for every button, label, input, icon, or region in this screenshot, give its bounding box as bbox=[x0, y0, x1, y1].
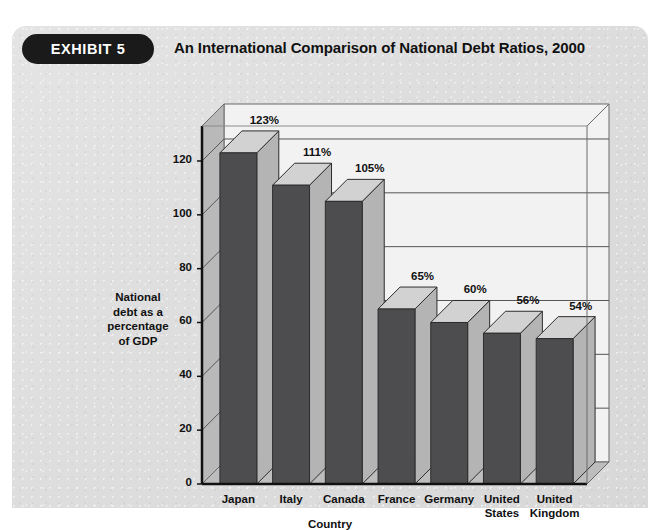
bar-front-face bbox=[536, 339, 573, 484]
bar-united-states bbox=[483, 311, 542, 484]
bar-value-label: 54% bbox=[555, 300, 607, 312]
y-tick-label: 0 bbox=[150, 476, 192, 488]
exhibit-panel: EXHIBIT 5 An International Comparison of… bbox=[12, 26, 648, 508]
bar-france bbox=[378, 287, 437, 484]
bar-japan bbox=[220, 131, 279, 484]
bar-germany bbox=[431, 300, 490, 484]
x-axis-label: UnitedKingdom bbox=[519, 492, 591, 520]
y-tick-label: 80 bbox=[150, 261, 192, 273]
bar-united-kingdom bbox=[536, 317, 595, 484]
bar-value-label: 111% bbox=[291, 146, 343, 158]
bar-value-label: 56% bbox=[502, 294, 554, 306]
y-tick-label: 20 bbox=[150, 422, 192, 434]
bar-chart: Nationaldebt as apercentageof GDP Countr… bbox=[12, 26, 648, 508]
x-axis-label-line: Kingdom bbox=[519, 506, 591, 520]
bar-side-face bbox=[573, 317, 595, 484]
x-axis-label-line: United bbox=[519, 492, 591, 506]
bar-value-label: 123% bbox=[238, 114, 290, 126]
bar-front-face bbox=[431, 322, 468, 484]
bar-italy bbox=[273, 163, 332, 484]
bar-value-label: 65% bbox=[397, 270, 449, 282]
y-tick-label: 60 bbox=[150, 314, 192, 326]
bar-front-face bbox=[273, 185, 310, 484]
y-tick-label: 40 bbox=[150, 368, 192, 380]
y-tick-label: 100 bbox=[150, 207, 192, 219]
y-tick-label: 120 bbox=[150, 153, 192, 165]
bar-front-face bbox=[325, 201, 362, 484]
chart-canvas bbox=[12, 26, 648, 508]
bar-value-label: 105% bbox=[344, 162, 396, 174]
bar-canada bbox=[325, 179, 384, 484]
bar-front-face bbox=[378, 309, 415, 484]
bar-front-face bbox=[220, 153, 257, 484]
y-axis-title-line: National bbox=[92, 290, 184, 305]
bar-front-face bbox=[483, 333, 520, 484]
y-axis-title-line: of GDP bbox=[92, 334, 184, 349]
bar-value-label: 60% bbox=[449, 283, 501, 295]
